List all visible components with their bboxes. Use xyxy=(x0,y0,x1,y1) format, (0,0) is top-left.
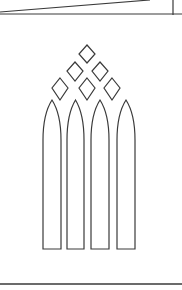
tracery-diamond xyxy=(79,78,95,100)
lancet-arch xyxy=(67,100,84,249)
tracery-diamond xyxy=(67,62,83,81)
top-frame-lines xyxy=(0,0,182,15)
tracery-diamond xyxy=(52,78,68,100)
gothic-window-drawing xyxy=(0,0,182,290)
tracery-diamond xyxy=(104,78,120,100)
tracery-diamond xyxy=(92,62,108,81)
lancet-arch xyxy=(43,100,61,249)
tracery-diamonds xyxy=(52,45,120,100)
lancet-arches xyxy=(43,100,135,249)
top-diagonal-line xyxy=(0,0,150,12)
tracery-diamond xyxy=(79,45,95,63)
lancet-arch xyxy=(91,100,109,249)
lancet-arch xyxy=(117,100,135,249)
